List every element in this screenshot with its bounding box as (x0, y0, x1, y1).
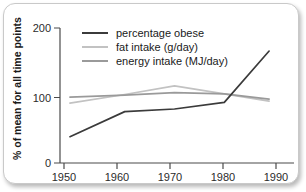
x-tick-label-1980: 1980 (211, 171, 235, 183)
x-tick-label-1990: 1990 (264, 171, 288, 183)
y-tick-label-0: 0 (45, 157, 51, 169)
x-axis-ticks: 1950 1960 1970 1980 1990 (52, 163, 288, 183)
y-axis-title: % of mean for all time points (11, 17, 23, 160)
chart-legend: percentage obese fat intake (g/day) ener… (82, 27, 228, 67)
legend-label-percentage-obese: percentage obese (116, 27, 204, 39)
y-axis-ticks: 200 100 0 (33, 22, 60, 169)
y-tick-label-200: 200 (33, 22, 51, 34)
line-chart: % of mean for all time points 200 100 0 … (4, 4, 299, 184)
x-tick-label-1960: 1960 (105, 171, 129, 183)
legend-label-energy-intake: energy intake (MJ/day) (116, 55, 228, 67)
x-tick-label-1950: 1950 (52, 171, 76, 183)
figure-card: % of mean for all time points 200 100 0 … (3, 3, 299, 184)
series-line-fat-intake (70, 86, 269, 103)
y-tick-label-100: 100 (33, 92, 51, 104)
legend-label-fat-intake: fat intake (g/day) (116, 41, 198, 53)
x-tick-label-1970: 1970 (158, 171, 182, 183)
